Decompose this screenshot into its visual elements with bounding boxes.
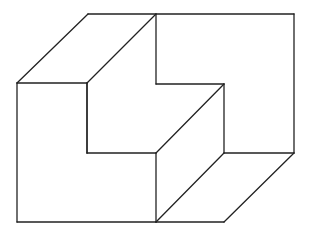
stepped-block-figure [0,0,312,238]
line-drawing [0,0,312,238]
edge-J-M [156,153,224,222]
edge-B-E [87,14,156,83]
edge-G-I [156,84,224,153]
edge-K-N [224,153,294,222]
edge-A-D [17,14,88,83]
